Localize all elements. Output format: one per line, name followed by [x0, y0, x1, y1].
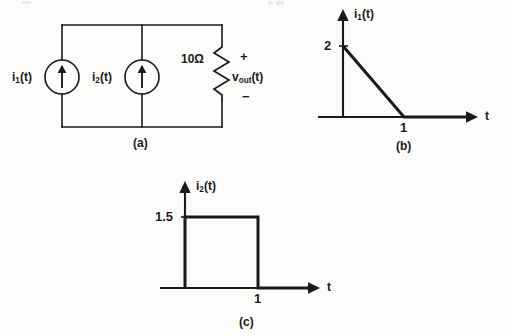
current-source-2-arrow-head	[138, 65, 147, 73]
current-source-1-label: i1(t)	[12, 71, 32, 85]
resistor-value-label: 10Ω	[181, 53, 204, 65]
panel-tag-b: (b)	[396, 140, 411, 152]
chart-c-ytick-label-1p5: 1.5	[155, 210, 173, 223]
panel-tag-a: (a)	[133, 137, 148, 149]
chart-b-linework	[318, 9, 478, 123]
chart-c-title: i2(t)	[196, 180, 216, 194]
chart-b-y-axis-arrow	[337, 9, 348, 21]
chart-c-xaxis-label: t	[327, 281, 331, 293]
chart-c-linework	[160, 181, 320, 294]
chart-c-data-trace	[185, 217, 312, 288]
chart-b-xtick-label-1: 1	[400, 121, 407, 134]
chart-b-xaxis-label: t	[485, 110, 489, 122]
figure-linework	[0, 0, 511, 336]
chart-b-title: i1(t)	[354, 8, 374, 22]
chart-c-xtick-label-1: 1	[254, 292, 261, 305]
current-source-2-label: i2(t)	[92, 71, 112, 85]
vout-label: vout(t)	[232, 71, 263, 85]
panel-tag-c: (c)	[239, 316, 254, 328]
chart-c-y-axis-arrow	[179, 181, 190, 193]
chart-b-data-trace	[343, 46, 470, 117]
vout-plus-sign: +	[240, 50, 248, 63]
circuit-schematic	[45, 25, 229, 127]
figure-page: i1(t) i2(t) 10Ω + vout(t) − (a) i1(t) 2 …	[0, 0, 511, 336]
current-source-1-arrow-head	[58, 65, 67, 73]
vout-minus-sign: −	[242, 90, 250, 103]
chart-b-ytick-label-2: 2	[324, 39, 331, 52]
resistor-zigzag	[214, 47, 229, 101]
